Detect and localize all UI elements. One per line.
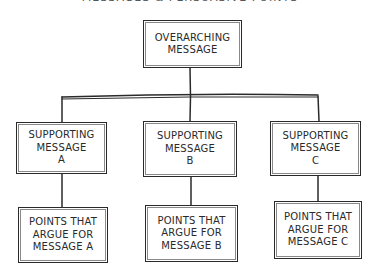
supporting-message-a-box: SUPPORTING MESSAGE A xyxy=(16,122,107,174)
supporting-message-c-box: SUPPORTING MESSAGE C xyxy=(270,121,361,176)
overarching-message-box: OVERARCHING MESSAGE xyxy=(143,20,242,68)
points-message-c-label: POINTS THAT ARGUE FOR MESSAGE C xyxy=(284,211,352,249)
points-message-a-box: POINTS THAT ARGUE FOR MESSAGE A xyxy=(18,207,108,263)
supporting-message-a-label: SUPPORTING MESSAGE A xyxy=(28,129,94,167)
supporting-message-b-box: SUPPORTING MESSAGE B xyxy=(143,121,237,177)
points-message-c-box: POINTS THAT ARGUE FOR MESSAGE C xyxy=(274,201,362,259)
overarching-message-label: OVERARCHING MESSAGE xyxy=(155,32,231,57)
supporting-message-c-label: SUPPORTING MESSAGE C xyxy=(282,130,348,168)
supporting-message-b-label: SUPPORTING MESSAGE B xyxy=(157,130,223,168)
points-message-b-label: POINTS THAT ARGUE FOR MESSAGE B xyxy=(158,215,226,253)
points-message-b-box: POINTS THAT ARGUE FOR MESSAGE B xyxy=(145,205,238,262)
points-message-a-label: POINTS THAT ARGUE FOR MESSAGE A xyxy=(29,216,97,254)
